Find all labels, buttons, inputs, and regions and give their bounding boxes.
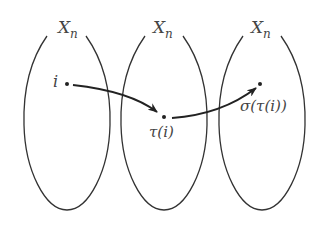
set-label-3: Xn [249,17,271,41]
set-label-1: Xn [56,17,78,41]
set-label-2: Xn [151,17,173,41]
set-ellipse-3 [219,36,305,210]
point-tau-i [162,115,166,119]
point-sigma-tau-i [258,82,262,86]
point-label-i: i [53,72,58,91]
set-ellipse-1 [24,36,110,210]
point-label-tau-i: τ(i) [149,123,174,141]
point-label-sigma-tau-i: σ(τ(i)) [240,97,287,115]
arrow-tau [73,85,157,112]
permutation-composition-diagram: Xn Xn Xn i τ(i) σ(τ(i)) [0,0,321,226]
point-i [65,82,69,86]
